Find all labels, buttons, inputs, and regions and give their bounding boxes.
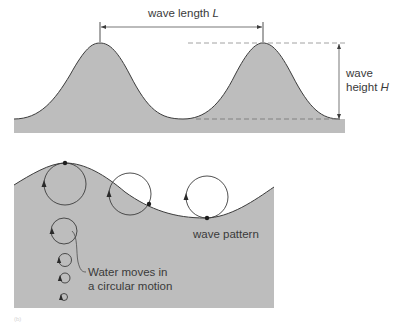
arrowhead-left-icon bbox=[101, 25, 106, 29]
arrowhead-down-icon bbox=[337, 114, 341, 119]
wave-height-symbol: H bbox=[381, 81, 389, 93]
panel-marker: (b) bbox=[14, 316, 21, 322]
top-wave-fill bbox=[14, 43, 345, 133]
circular-motion-line2: a circular motion bbox=[88, 279, 172, 293]
orbit-circle-trough bbox=[186, 176, 228, 218]
arrowhead-up-icon bbox=[337, 44, 341, 49]
wave-length-dimension bbox=[100, 22, 263, 42]
wave-pattern-label: wave pattern bbox=[193, 227, 259, 241]
arrowhead-right-icon bbox=[257, 25, 262, 29]
wave-height-line2: height bbox=[346, 81, 377, 93]
top-wave-panel bbox=[14, 22, 345, 133]
particle-dot-slope bbox=[147, 202, 151, 206]
particle-dot-crest bbox=[63, 161, 67, 165]
wave-diagram bbox=[0, 0, 395, 323]
wave-height-dimension bbox=[337, 44, 341, 119]
wave-length-symbol: L bbox=[213, 7, 219, 19]
circular-motion-label: Water moves in a circular motion bbox=[88, 265, 172, 293]
wave-length-label: wave length L bbox=[148, 6, 219, 20]
circular-motion-line1: Water moves in bbox=[88, 265, 172, 279]
particle-dot-trough bbox=[205, 216, 209, 220]
arrow-up-icon bbox=[184, 193, 189, 200]
wave-height-label: wave height H bbox=[346, 66, 389, 94]
wave-length-text: wave length bbox=[148, 7, 209, 19]
wave-height-line1: wave bbox=[346, 66, 389, 80]
